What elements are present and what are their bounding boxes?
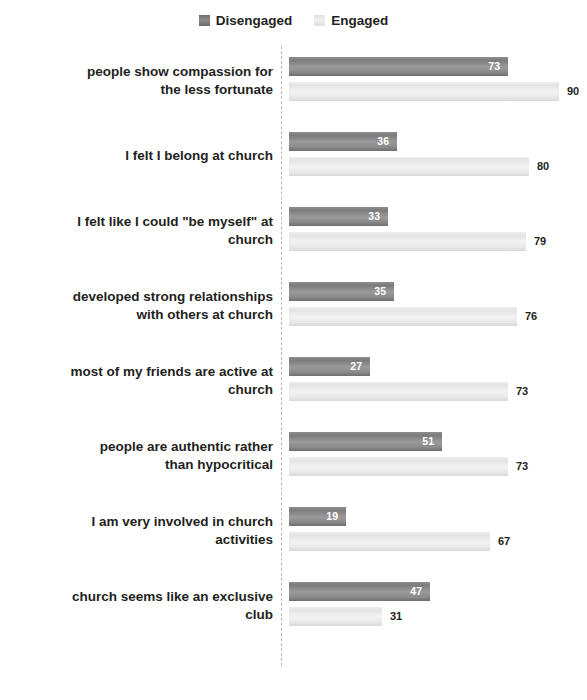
bar-value-label: 35 — [374, 286, 394, 297]
bar-disengaged-row: 73 — [289, 57, 508, 76]
category-label-line: I am very involved in church — [91, 513, 273, 531]
bar-value-label: 19 — [326, 511, 346, 522]
bar-engaged-row: 79 — [289, 232, 546, 251]
category-label-line: with others at church — [136, 306, 273, 324]
bar-disengaged[interactable]: 35 — [289, 282, 394, 301]
legend-label-disengaged: Disengaged — [216, 14, 293, 28]
category-label-line: people are authentic rather — [100, 438, 273, 456]
category-label: I felt I belong at church — [23, 118, 273, 193]
category-label-line: church — [228, 381, 273, 399]
bar-disengaged[interactable]: 36 — [289, 132, 397, 151]
bar-value-label: 27 — [350, 361, 370, 372]
bar-disengaged-row: 51 — [289, 432, 442, 451]
bars: 5173 — [289, 418, 587, 493]
category-label-line: club — [245, 606, 273, 624]
bars: 3680 — [289, 118, 587, 193]
bar-engaged[interactable] — [289, 157, 529, 176]
bar-engaged[interactable] — [289, 307, 517, 326]
bar-group: I am very involved in churchactivities19… — [0, 493, 587, 568]
bar-disengaged[interactable]: 51 — [289, 432, 442, 451]
category-label: I am very involved in churchactivities — [23, 493, 273, 568]
category-label-line: developed strong relationships — [73, 288, 273, 306]
bar-group: people show compassion forthe less fortu… — [0, 43, 587, 118]
bar-value-label: 67 — [490, 536, 510, 547]
bar-value-label: 73 — [488, 61, 508, 72]
bar-value-label: 90 — [559, 86, 579, 97]
bar-group: most of my friends are active atchurch27… — [0, 343, 587, 418]
light-gray-swatch-icon — [314, 15, 325, 26]
legend-label-engaged: Engaged — [331, 14, 388, 28]
bar-engaged[interactable] — [289, 382, 508, 401]
category-label-line: church — [228, 231, 273, 249]
bar-value-label: 31 — [382, 611, 402, 622]
bar-engaged-row: 80 — [289, 157, 549, 176]
bar-engaged-row: 31 — [289, 607, 402, 626]
bar-engaged[interactable] — [289, 232, 526, 251]
chart-legend: Disengaged Engaged — [0, 14, 587, 28]
bars: 2773 — [289, 343, 587, 418]
category-label-line: most of my friends are active at — [70, 363, 273, 381]
bar-value-label: 79 — [526, 236, 546, 247]
bars: 3576 — [289, 268, 587, 343]
category-label: I felt like I could "be myself" atchurch — [23, 193, 273, 268]
bar-engaged-row: 76 — [289, 307, 537, 326]
horizontal-bar-chart: Disengaged Engaged people show compassio… — [0, 0, 587, 700]
bar-groups: people show compassion forthe less fortu… — [0, 43, 587, 643]
bar-disengaged[interactable]: 73 — [289, 57, 508, 76]
legend-item-engaged: Engaged — [314, 14, 388, 28]
category-label: people are authentic ratherthan hypocrit… — [23, 418, 273, 493]
bars: 7390 — [289, 43, 587, 118]
dark-gray-swatch-icon — [199, 15, 210, 26]
bar-group: people are authentic ratherthan hypocrit… — [0, 418, 587, 493]
bar-value-label: 80 — [529, 161, 549, 172]
bar-engaged-row: 67 — [289, 532, 510, 551]
bar-engaged[interactable] — [289, 607, 382, 626]
bar-disengaged-row: 35 — [289, 282, 394, 301]
bar-engaged[interactable] — [289, 457, 508, 476]
bar-value-label: 36 — [377, 136, 397, 147]
bar-disengaged[interactable]: 27 — [289, 357, 370, 376]
legend-item-disengaged: Disengaged — [199, 14, 293, 28]
bar-engaged-row: 73 — [289, 457, 528, 476]
bar-disengaged-row: 33 — [289, 207, 388, 226]
category-label: most of my friends are active atchurch — [23, 343, 273, 418]
bars: 4731 — [289, 568, 587, 643]
bar-engaged-row: 73 — [289, 382, 528, 401]
bar-value-label: 73 — [508, 461, 528, 472]
bars: 3379 — [289, 193, 587, 268]
bars: 1967 — [289, 493, 587, 568]
bar-engaged[interactable] — [289, 532, 490, 551]
bar-value-label: 51 — [422, 436, 442, 447]
category-label-line: people show compassion for — [87, 63, 273, 81]
bar-disengaged[interactable]: 33 — [289, 207, 388, 226]
plot-area: people show compassion forthe less fortu… — [0, 43, 587, 693]
bar-group: I felt I belong at church3680 — [0, 118, 587, 193]
category-label: people show compassion forthe less fortu… — [23, 43, 273, 118]
bar-group: I felt like I could "be myself" atchurch… — [0, 193, 587, 268]
bar-value-label: 33 — [368, 211, 388, 222]
category-label-line: than hypocritical — [165, 456, 273, 474]
bar-value-label: 47 — [410, 586, 430, 597]
bar-disengaged[interactable]: 47 — [289, 582, 430, 601]
bar-disengaged-row: 36 — [289, 132, 397, 151]
bar-value-label: 76 — [517, 311, 537, 322]
bar-engaged[interactable] — [289, 82, 559, 101]
bar-disengaged-row: 27 — [289, 357, 370, 376]
bar-disengaged[interactable]: 19 — [289, 507, 346, 526]
category-label-line: I felt I belong at church — [125, 147, 273, 165]
bar-engaged-row: 90 — [289, 82, 579, 101]
category-label-line: I felt like I could "be myself" at — [77, 213, 273, 231]
bar-group: church seems like an exclusiveclub4731 — [0, 568, 587, 643]
category-label-line: activities — [215, 531, 273, 549]
bar-disengaged-row: 47 — [289, 582, 430, 601]
category-label-line: the less fortunate — [160, 81, 273, 99]
bar-disengaged-row: 19 — [289, 507, 346, 526]
category-label: developed strong relationshipswith other… — [23, 268, 273, 343]
category-label-line: church seems like an exclusive — [72, 588, 273, 606]
category-label: church seems like an exclusiveclub — [23, 568, 273, 643]
bar-group: developed strong relationshipswith other… — [0, 268, 587, 343]
bar-value-label: 73 — [508, 386, 528, 397]
